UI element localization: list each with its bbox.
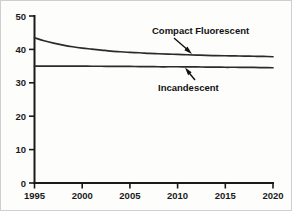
line-chart-figure: 50 40 30 20 10 0 1995 2000 2005 2010 201… — [0, 0, 292, 211]
y-tick-label-50: 50 — [15, 11, 26, 22]
series-line-compact-fluorescent — [35, 38, 274, 57]
x-tick-label-2020: 2020 — [262, 190, 283, 201]
x-tick-label-1995: 1995 — [24, 190, 46, 201]
y-tick-label-40: 40 — [15, 44, 26, 55]
x-tick-label-2005: 2005 — [119, 190, 141, 201]
annotation-label-compact-fluorescent: Compact Fluorescent — [152, 25, 250, 36]
x-tick-label-2015: 2015 — [215, 190, 237, 201]
y-tick-label-20: 20 — [15, 111, 26, 122]
annotation-label-incandescent: Incandescent — [158, 82, 220, 93]
y-tick-label-10: 10 — [15, 144, 26, 155]
x-tick-label-2010: 2010 — [167, 190, 188, 201]
y-tick-label-30: 30 — [15, 77, 26, 88]
y-tick-label-0: 0 — [21, 178, 26, 189]
series-line-incandescent — [35, 66, 274, 68]
chart-plot-area: 50 40 30 20 10 0 1995 2000 2005 2010 201… — [1, 1, 292, 211]
x-tick-label-2000: 2000 — [72, 190, 93, 201]
